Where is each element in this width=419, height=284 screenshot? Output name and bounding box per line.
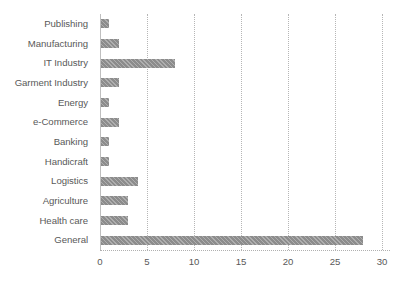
- bar: [100, 216, 128, 225]
- category-label: e-Commerce: [0, 117, 88, 127]
- bar: [100, 78, 119, 87]
- category-label: Banking: [0, 137, 88, 147]
- bar: [100, 118, 119, 127]
- category-label: Publishing: [0, 19, 88, 29]
- category-label: Health care: [0, 216, 88, 226]
- category-label: Agriculture: [0, 196, 88, 206]
- category-label: Handicraft: [0, 157, 88, 167]
- bar: [100, 196, 128, 205]
- bar: [100, 137, 109, 146]
- gridline-5: [147, 14, 148, 250]
- x-tick-label: 10: [179, 256, 209, 267]
- x-tick-label: 30: [367, 256, 397, 267]
- bar: [100, 59, 175, 68]
- gridline-30: [382, 14, 383, 250]
- category-label: Energy: [0, 98, 88, 108]
- value-axis-line: [100, 14, 101, 251]
- category-label: IT Industry: [0, 58, 88, 68]
- category-label: Garment Industry: [0, 78, 88, 88]
- plot-area: [100, 14, 382, 250]
- bar: [100, 157, 109, 166]
- category-axis-labels: PublishingManufacturingIT IndustryGarmen…: [0, 14, 93, 250]
- bar: [100, 19, 109, 28]
- bar-chart: PublishingManufacturingIT IndustryGarmen…: [0, 0, 419, 284]
- category-axis-line: [100, 250, 390, 251]
- bar: [100, 236, 363, 245]
- x-tick-label: 25: [320, 256, 350, 267]
- category-label: General: [0, 235, 88, 245]
- bar: [100, 39, 119, 48]
- bar: [100, 177, 138, 186]
- x-tick-label: 20: [273, 256, 303, 267]
- bar: [100, 98, 109, 107]
- category-label: Manufacturing: [0, 39, 88, 49]
- gridline-10: [194, 14, 195, 250]
- gridline-20: [288, 14, 289, 250]
- x-tick-label: 5: [132, 256, 162, 267]
- category-label: Logistics: [0, 176, 88, 186]
- gridline-15: [241, 14, 242, 250]
- x-tick-label: 0: [85, 256, 115, 267]
- gridline-25: [335, 14, 336, 250]
- x-tick-label: 15: [226, 256, 256, 267]
